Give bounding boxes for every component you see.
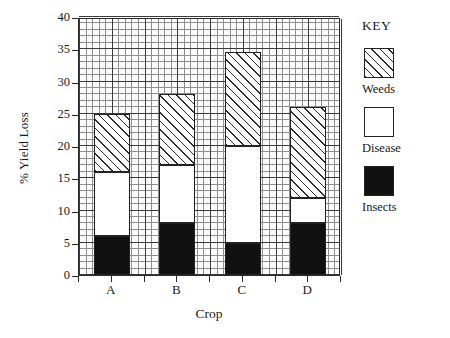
bar-segment-a-weeds xyxy=(94,114,130,172)
bar-b xyxy=(159,94,195,275)
x-tick-label-a: A xyxy=(91,282,131,298)
bar-segment-c-disease xyxy=(225,146,261,243)
legend-entry-disease: Disease xyxy=(360,107,446,156)
bar-segment-d-disease xyxy=(290,198,326,224)
x-tick-mark xyxy=(144,276,145,282)
gridline-major-v xyxy=(341,19,342,275)
legend-label-weeds: Weeds xyxy=(360,82,446,97)
bar-segment-b-disease xyxy=(159,165,195,223)
y-tick-label: 40 xyxy=(36,11,70,24)
bar-c xyxy=(225,52,261,275)
bar-segment-a-insects xyxy=(94,236,130,275)
bar-segment-a-disease xyxy=(94,172,130,237)
bar-series-container xyxy=(79,19,339,275)
x-tick-mark xyxy=(78,276,79,282)
x-tick-label-c: C xyxy=(222,282,262,298)
legend-label-insects: Insects xyxy=(360,200,446,215)
bar-segment-d-insects xyxy=(290,223,326,275)
bar-segment-d-weeds xyxy=(290,107,326,197)
x-tick-mark xyxy=(340,276,341,282)
x-tick-mark xyxy=(242,276,243,282)
y-tick-label: 0 xyxy=(36,269,70,282)
y-tick-label: 25 xyxy=(36,108,70,121)
y-tick-label: 5 xyxy=(36,237,70,250)
x-tick-mark xyxy=(111,276,112,282)
x-tick-mark xyxy=(275,276,276,282)
y-tick-label: 30 xyxy=(36,76,70,89)
legend-label-disease: Disease xyxy=(360,141,446,156)
x-axis-title: Crop xyxy=(78,306,340,322)
legend-entry-insects: Insects xyxy=(360,166,446,215)
y-tick-label: 10 xyxy=(36,205,70,218)
black-swatch xyxy=(364,166,394,196)
plot-area xyxy=(78,18,340,276)
y-axis-title: % Yield Loss xyxy=(16,78,32,218)
x-tick-label-d: D xyxy=(287,282,327,298)
bar-segment-c-weeds xyxy=(225,52,261,146)
hatch-swatch xyxy=(364,48,394,78)
legend: KEY WeedsDiseaseInsects xyxy=(360,18,446,225)
legend-entries: WeedsDiseaseInsects xyxy=(360,48,446,215)
bar-d xyxy=(290,107,326,275)
y-tick-label: 35 xyxy=(36,43,70,56)
x-tick-mark xyxy=(307,276,308,282)
bar-a xyxy=(94,114,130,275)
bar-segment-c-insects xyxy=(225,243,261,275)
bar-segment-b-insects xyxy=(159,223,195,275)
legend-entry-weeds: Weeds xyxy=(360,48,446,97)
white-swatch xyxy=(364,107,394,137)
gridline-major-h xyxy=(79,16,339,17)
y-tick-label: 15 xyxy=(36,172,70,185)
stacked-bar-chart-figure: % Yield Loss 0510152025303540 ABCD Crop … xyxy=(0,0,450,338)
legend-title: KEY xyxy=(360,18,446,34)
x-tick-mark xyxy=(176,276,177,282)
y-tick-label: 20 xyxy=(36,140,70,153)
x-tick-label-b: B xyxy=(156,282,196,298)
bar-segment-b-weeds xyxy=(159,94,195,165)
x-tick-mark xyxy=(209,276,210,282)
